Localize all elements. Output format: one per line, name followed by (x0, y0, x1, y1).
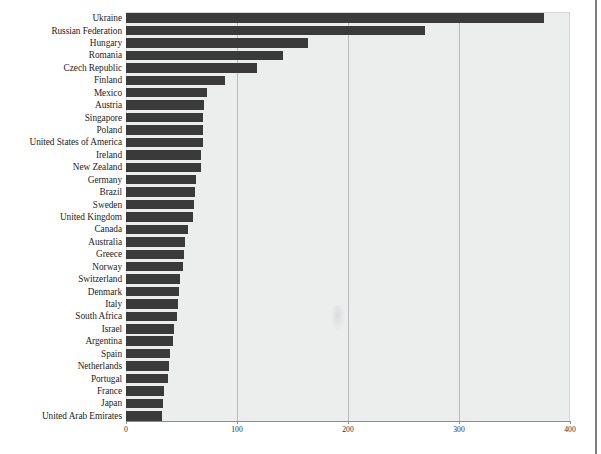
bar-row: France (0, 385, 601, 397)
bar-row: Poland (0, 124, 601, 136)
bar (126, 150, 201, 160)
bar-row: Denmark (0, 285, 601, 297)
bar (126, 225, 188, 235)
bar-category-label: Romania (0, 50, 126, 60)
bar-category-label: Austria (0, 100, 126, 110)
bar-row: United Kingdom (0, 211, 601, 223)
bar-category-label: Israel (0, 324, 126, 334)
bar-category-label: Netherlands (0, 361, 126, 371)
bar-category-label: France (0, 386, 126, 396)
bar-category-label: United States of America (0, 137, 126, 147)
x-axis-tick-label: 400 (564, 425, 575, 434)
bar-category-label: Hungary (0, 38, 126, 48)
bar (126, 374, 168, 384)
bar-row: Finland (0, 74, 601, 86)
bar (126, 26, 425, 36)
bar (126, 187, 195, 197)
bar (126, 411, 162, 421)
bar-row: New Zealand (0, 161, 601, 173)
bar (126, 386, 164, 396)
bar-row: Brazil (0, 186, 601, 198)
bar-category-label: Finland (0, 75, 126, 85)
bar (126, 113, 203, 123)
bar-row: Japan (0, 397, 601, 409)
bar-category-label: Norway (0, 262, 126, 272)
bar-row: Ukraine (0, 12, 601, 24)
bar (126, 163, 201, 173)
bar-category-label: Ukraine (0, 13, 126, 23)
bar-category-label: Mexico (0, 88, 126, 98)
bar-category-label: Russian Federation (0, 26, 126, 36)
x-axis-tick-label: 200 (342, 425, 353, 434)
bar (126, 76, 225, 86)
bar-row: Portugal (0, 372, 601, 384)
bar (126, 250, 184, 260)
bar-row: Russian Federation (0, 24, 601, 36)
bar-row: Netherlands (0, 360, 601, 372)
bar-category-label: Australia (0, 237, 126, 247)
bar (126, 13, 544, 23)
bar-category-label: United Arab Emirates (0, 411, 126, 421)
bar-category-label: Czech Republic (0, 63, 126, 73)
bar-row: Romania (0, 49, 601, 61)
bar-category-label: Argentina (0, 336, 126, 346)
bar (126, 138, 203, 148)
bar-category-label: Denmark (0, 287, 126, 297)
bar-row: Ireland (0, 149, 601, 161)
x-axis-tick-label: 0 (124, 425, 128, 434)
bar (126, 237, 185, 247)
bar-row: Czech Republic (0, 62, 601, 74)
bar-row: Norway (0, 260, 601, 272)
bar-row: Israel (0, 323, 601, 335)
bar-row: Argentina (0, 335, 601, 347)
x-axis-tick-label: 100 (231, 425, 242, 434)
bar (126, 299, 178, 309)
bar (126, 399, 163, 409)
bar-category-label: United Kingdom (0, 212, 126, 222)
bar (126, 312, 177, 322)
bar-row: Sweden (0, 198, 601, 210)
bar (126, 88, 207, 98)
bar-category-label: Japan (0, 398, 126, 408)
bar-category-label: Ireland (0, 150, 126, 160)
bar (126, 200, 194, 210)
bar (126, 51, 283, 61)
bar (126, 349, 170, 359)
bar (126, 287, 179, 297)
bar-row: Mexico (0, 87, 601, 99)
bar (126, 361, 169, 371)
bar (126, 324, 174, 334)
x-axis-tick (570, 421, 571, 424)
bar-category-label: Spain (0, 349, 126, 359)
bar-row: Australia (0, 236, 601, 248)
bar-category-label: Sweden (0, 200, 126, 210)
bar (126, 274, 180, 284)
bar (126, 38, 308, 48)
bar-row: South Africa (0, 310, 601, 322)
bar (126, 262, 183, 272)
bar-category-label: Germany (0, 175, 126, 185)
bar-row: Hungary (0, 37, 601, 49)
x-axis-tick (348, 421, 349, 424)
bar-category-label: Italy (0, 299, 126, 309)
x-axis-tick-label: 300 (453, 425, 464, 434)
bar-row: Germany (0, 174, 601, 186)
bar (126, 336, 173, 346)
bar (126, 100, 204, 110)
bar-category-label: South Africa (0, 311, 126, 321)
bar-row: Switzerland (0, 273, 601, 285)
bar (126, 125, 203, 135)
bar-row: Singapore (0, 111, 601, 123)
page-edge-rule (595, 0, 597, 454)
bar-rows: UkraineRussian FederationHungaryRomaniaC… (0, 12, 601, 422)
bar-chart: UkraineRussian FederationHungaryRomaniaC… (0, 0, 601, 454)
bar-category-label: Switzerland (0, 274, 126, 284)
bar (126, 175, 196, 185)
bar (126, 63, 257, 73)
bar-category-label: New Zealand (0, 162, 126, 172)
bar (126, 212, 193, 222)
bar-category-label: Poland (0, 125, 126, 135)
bar-row: Greece (0, 248, 601, 260)
bar-category-label: Singapore (0, 113, 126, 123)
x-axis-tick (459, 421, 460, 424)
